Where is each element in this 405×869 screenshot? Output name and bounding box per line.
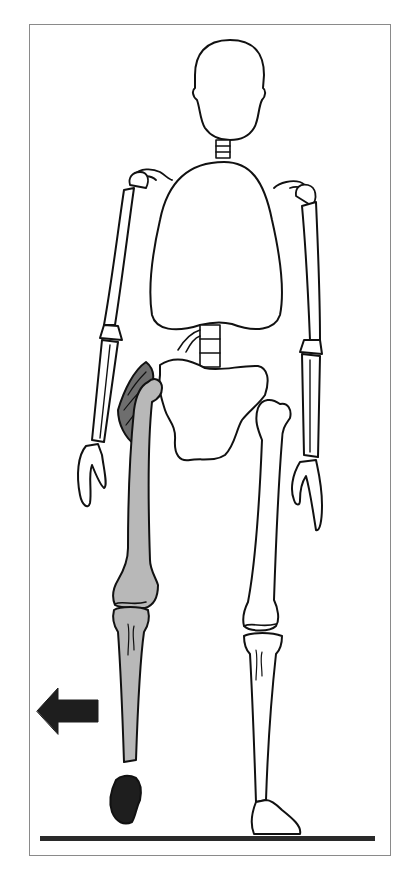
left-arm (78, 188, 134, 506)
skull (193, 40, 265, 140)
left-shoulder (129, 169, 172, 188)
right-arm (292, 202, 322, 530)
ribcage (150, 162, 282, 329)
right-shoulder (274, 181, 315, 206)
foot-dark (110, 776, 140, 824)
skeleton-diagram (0, 0, 405, 869)
cervical-spine (216, 140, 230, 158)
pelvis (159, 359, 267, 460)
highlighted-leg (110, 362, 162, 824)
ground-line (40, 836, 375, 841)
standing-leg (243, 400, 300, 834)
direction-arrow-left-icon (37, 688, 98, 734)
